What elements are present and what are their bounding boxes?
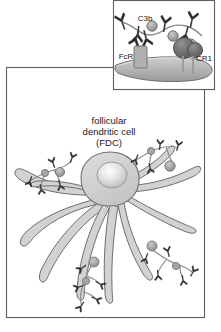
diagram-canvas: follicular dendritic cell (FDC) (0, 0, 221, 332)
fdc-label-line-2: dendritic cell (83, 126, 136, 137)
complement-c3b-sphere (89, 257, 99, 267)
label-cr1: CR1 (196, 54, 213, 63)
complement-c3b-sphere (147, 241, 157, 251)
antigen-complex (41, 169, 48, 176)
complement-c3b-sphere (55, 167, 64, 176)
fdc-nucleus (97, 162, 127, 188)
complement-c3b-sphere (165, 161, 175, 171)
inset-panel: C3b FcR CR1 (114, 1, 215, 90)
label-fcr: FcR (119, 52, 134, 61)
antigen-complex (147, 147, 154, 154)
antigen-complex (82, 277, 89, 284)
fdc-label-line-3: (FDC) (96, 137, 122, 148)
label-c3b: C3b (138, 14, 153, 23)
fdc-label-line-1: follicular (92, 115, 127, 126)
figure-root: follicular dendritic cell (FDC) (0, 0, 221, 332)
complement-c3b-sphere (168, 31, 178, 41)
antigen-complex (172, 262, 179, 269)
